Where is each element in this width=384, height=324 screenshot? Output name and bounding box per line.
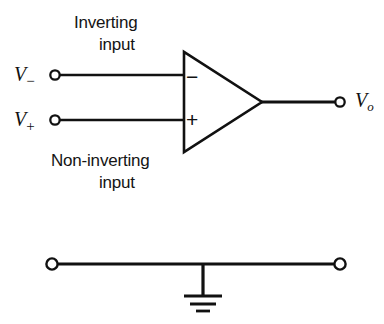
output-terminal <box>335 97 344 106</box>
v-out-label: Vo <box>355 90 374 113</box>
v-minus-symbol: V <box>14 63 26 85</box>
op-amp-diagram: Inverting input Non-inverting input V− V… <box>0 0 384 324</box>
inverting-input-label-line2: input <box>99 36 135 53</box>
non-inverting-input-terminal <box>50 115 59 124</box>
v-plus-symbol: V <box>14 108 26 130</box>
v-out-subscript: o <box>367 99 374 114</box>
inverting-input-label-line1: Inverting <box>74 14 137 31</box>
v-plus-subscript: + <box>26 118 34 134</box>
non-inverting-input-label-line2: input <box>99 174 135 191</box>
ground-rail-left-terminal <box>46 258 57 269</box>
non-inverting-terminal-plus-sign: + <box>186 109 198 130</box>
v-out-symbol: V <box>355 89 367 111</box>
inverting-input-terminal <box>50 70 59 79</box>
v-minus-subscript: − <box>26 73 34 89</box>
v-plus-label: V+ <box>14 109 35 134</box>
non-inverting-input-label-line1: Non-inverting <box>51 152 150 169</box>
v-minus-label: V− <box>14 64 35 89</box>
ground-rail-right-terminal <box>334 258 345 269</box>
inverting-terminal-minus-sign: − <box>186 66 198 87</box>
